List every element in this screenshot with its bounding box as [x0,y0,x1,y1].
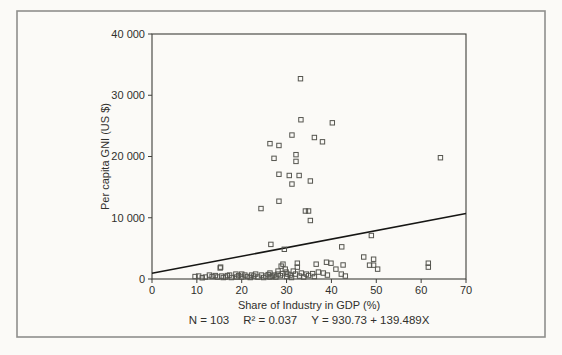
data-point [290,182,294,186]
x-tick-label: 60 [415,284,427,296]
data-point [308,179,312,183]
scatter-plot-figure: 010203040506070010 00020 00030 00040 000… [0,0,562,355]
data-point [329,261,333,265]
y-tick-label: 30 000 [111,89,145,101]
data-point [371,257,375,261]
y-axis-label: Per capita GNI (US $) [99,103,111,210]
axis-ticks: 010203040506070010 00020 00030 00040 000 [111,28,472,296]
data-point [362,255,366,259]
data-point [340,245,344,249]
y-tick-label: 10 000 [111,212,145,224]
data-point [306,209,310,213]
stats-caption: N = 103R² = 0.037Y = 930.73 + 139.489X [189,314,430,326]
data-point [299,118,303,122]
plot-area [152,34,466,279]
x-tick-label: 70 [460,284,472,296]
data-point [277,199,281,203]
data-point [269,242,273,246]
x-tick-label: 10 [191,284,203,296]
stat-n: N = 103 [189,314,230,326]
x-tick-label: 20 [236,284,248,296]
x-axis-label: Share of Industry in GDP (%) [238,299,380,311]
data-point [314,262,318,266]
data-point [312,135,316,139]
data-point [316,270,320,274]
data-point [298,77,302,81]
data-point [334,267,338,271]
y-tick-label: 40 000 [111,28,145,40]
data-point [303,209,307,213]
data-point [294,152,298,156]
data-point [277,143,281,147]
scatter-plot: 010203040506070010 00020 00030 00040 000… [0,0,562,355]
data-point [438,156,442,160]
data-point [268,141,272,145]
data-point [308,218,312,222]
data-point [320,140,324,144]
data-point [324,260,328,264]
data-point [341,263,345,267]
x-tick-label: 50 [370,284,382,296]
x-tick-label: 0 [149,284,155,296]
y-tick-label: 20 000 [111,150,145,162]
data-point [290,133,294,137]
data-point [287,173,291,177]
data-point [297,173,301,177]
data-point [369,233,373,237]
x-tick-label: 40 [325,284,337,296]
data-point [330,121,334,125]
y-tick-label: 0 [139,273,145,285]
data-points [193,77,443,280]
stat-r-squared: R² = 0.037 [243,314,297,326]
data-point [259,206,263,210]
data-point [272,156,276,160]
data-point [294,159,298,163]
stat-equation: Y = 930.73 + 139.489X [311,314,429,326]
x-tick-label: 30 [280,284,292,296]
data-point [277,172,281,176]
